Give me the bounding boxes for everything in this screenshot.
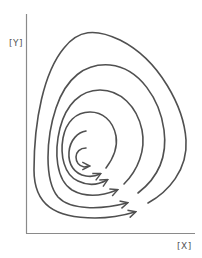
trajectory-6 [76, 148, 89, 167]
x-axis-label: [X] [177, 241, 192, 251]
trajectory-3 [57, 90, 143, 195]
y-axis-label: [Y] [9, 38, 23, 48]
phase-portrait-diagram: [Y] [X] [0, 0, 202, 258]
trajectory-5 [69, 131, 100, 176]
phase-portrait-svg [0, 0, 202, 258]
trajectory-2 [48, 65, 165, 208]
